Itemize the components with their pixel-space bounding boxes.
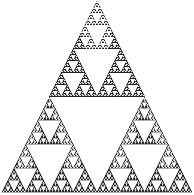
sierpinski-triangle-figure: Sierpinski Triangle xyxy=(0,0,194,195)
sierpinski-triangle-canvas: Sierpinski Triangle xyxy=(0,0,194,195)
canvas-background xyxy=(0,0,194,195)
